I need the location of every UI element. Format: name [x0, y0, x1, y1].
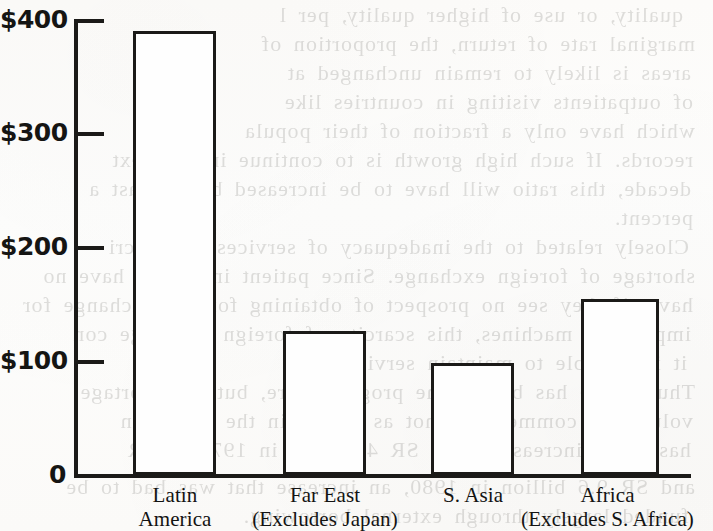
category-label-africa: Africa (Excludes S. Africa) [502, 484, 713, 531]
y-axis-tick-200 [74, 246, 104, 250]
bar-far-east [283, 331, 366, 475]
y-axis-label-400: $400 [0, 5, 66, 34]
category-label-far-east: Far East (Excludes Japan) [236, 484, 414, 531]
y-axis-tick-400 [74, 19, 104, 23]
bar-africa [581, 299, 659, 475]
bar-chart: $400 $300 $200 $100 0 Latin America Far … [0, 0, 713, 531]
y-axis-label-300: $300 [0, 118, 66, 147]
category-label-latin-america: Latin America [114, 484, 236, 531]
category-label-line2: (Excludes S. Africa) [502, 508, 713, 531]
y-axis-label-0: 0 [0, 460, 66, 489]
category-label-line1: S. Asia [443, 483, 503, 507]
y-axis-tick-300 [74, 132, 104, 136]
category-label-line2: (Excludes Japan) [236, 508, 414, 531]
category-label-line1: Far East [290, 483, 360, 507]
y-axis-tick-100 [74, 360, 104, 364]
category-label-line1: Latin [153, 483, 198, 507]
category-label-line2: America [114, 508, 236, 531]
bar-latin-america [133, 31, 216, 475]
scanned-page: quality, or use of higher quality, per l… [0, 0, 713, 531]
y-axis-label-100: $100 [0, 346, 66, 375]
category-label-line1: Africa [580, 483, 634, 507]
bar-s-asia [431, 363, 514, 475]
y-axis-label-200: $200 [0, 232, 66, 261]
